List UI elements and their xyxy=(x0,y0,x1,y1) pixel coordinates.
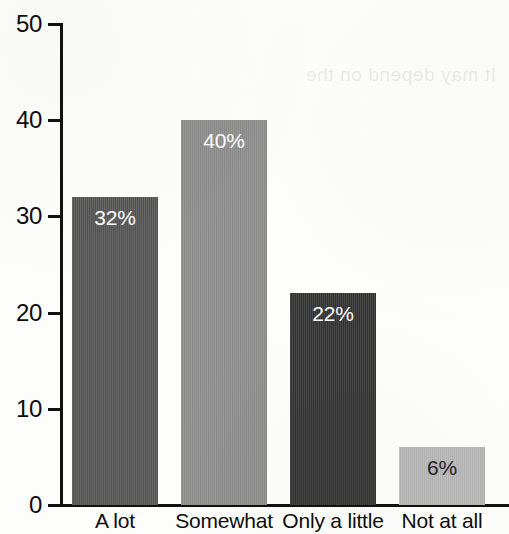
y-tick-mark xyxy=(48,504,61,507)
bar-texture xyxy=(72,197,158,505)
bar-value-label: 40% xyxy=(181,129,267,153)
bar[interactable]: 6% xyxy=(399,447,485,505)
y-axis-line xyxy=(60,23,63,507)
bar-texture xyxy=(181,120,267,505)
bar[interactable]: 22% xyxy=(290,293,376,505)
bar-texture xyxy=(399,447,485,505)
bar-value-label: 22% xyxy=(290,302,376,326)
y-tick-mark xyxy=(48,23,61,26)
y-tick-label: 10 xyxy=(0,395,42,423)
y-tick-mark xyxy=(48,119,61,122)
bar-value-label: 6% xyxy=(399,456,485,480)
y-tick-label: 50 xyxy=(0,10,42,38)
y-tick-label: 20 xyxy=(0,299,42,327)
y-tick-label: 30 xyxy=(0,202,42,230)
bar-chart: 01020304050 32%40%22%6% A lotSomewhatOnl… xyxy=(0,0,509,534)
y-tick-mark xyxy=(48,215,61,218)
y-tick-mark xyxy=(48,408,61,411)
x-axis-category-label: Only a little xyxy=(272,509,394,533)
x-axis-category-label: Not at all xyxy=(381,509,503,533)
y-tick-label: 0 xyxy=(0,491,42,519)
bar-texture xyxy=(290,293,376,505)
y-tick-mark xyxy=(48,312,61,315)
bar[interactable]: 32% xyxy=(72,197,158,505)
x-axis-category-label: A lot xyxy=(54,509,176,533)
bar-value-label: 32% xyxy=(72,206,158,230)
y-tick-label: 40 xyxy=(0,106,42,134)
bar[interactable]: 40% xyxy=(181,120,267,505)
x-axis-category-label: Somewhat xyxy=(163,509,285,533)
